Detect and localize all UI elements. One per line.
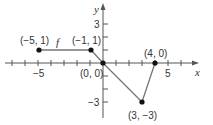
y-tick-label-3: 3 <box>94 19 100 30</box>
point-neg1-1 <box>88 47 93 52</box>
label-point-neg1-1: (−1, 1) <box>72 35 101 46</box>
point-4-0 <box>152 60 157 65</box>
label-point-3-neg3: (3, −3) <box>128 110 157 121</box>
function-name-label: f <box>56 36 61 48</box>
x-tick-label-neg5: −5 <box>33 68 45 79</box>
x-tick-label-5: 5 <box>165 68 171 79</box>
y-tick-label-neg3: −3 <box>88 97 100 108</box>
graph: x y −5 5 3 −3 (−5, 1) (−1, 1) (0, 0) (3,… <box>0 0 213 125</box>
x-axis-arrow-icon <box>192 61 199 66</box>
point-3-neg3 <box>139 99 144 104</box>
y-axis-arrow-icon <box>101 3 106 10</box>
y-axis-label: y <box>93 3 99 15</box>
label-point-origin: (0, 0) <box>80 68 103 79</box>
label-point-4-0: (4, 0) <box>144 48 167 59</box>
label-point-neg5-1: (−5, 1) <box>20 35 49 46</box>
point-origin <box>100 60 105 65</box>
point-neg5-1 <box>36 47 41 52</box>
x-axis-label: x <box>194 66 200 78</box>
